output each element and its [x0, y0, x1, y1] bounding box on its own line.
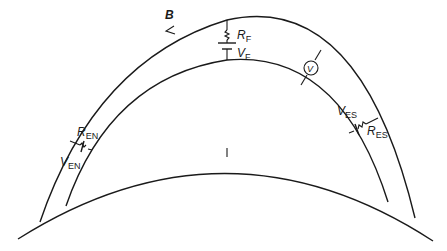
label-ren: REN	[77, 125, 98, 141]
label-vf: VF	[237, 46, 251, 62]
voltmeter-wire-top	[315, 50, 321, 60]
earth-surface-arc	[18, 173, 433, 241]
circuit-diagram: V B RF VF REN VEN VES RES	[0, 0, 447, 251]
resistor-rf-icon	[225, 30, 229, 40]
resistor-res-icon	[358, 122, 366, 129]
label-rf: RF	[237, 28, 252, 44]
field-direction-arrow-icon	[166, 26, 175, 34]
label-ves: VES	[337, 104, 357, 120]
label-ven: VEN	[60, 155, 81, 171]
inner-field-line	[66, 59, 388, 206]
ven-wire	[88, 149, 92, 150]
label-res: RES	[367, 124, 388, 140]
outer-field-line	[40, 17, 415, 222]
voltmeter-label: V	[307, 64, 314, 74]
field-label-b: B	[165, 8, 174, 22]
ves-wire	[349, 131, 354, 133]
